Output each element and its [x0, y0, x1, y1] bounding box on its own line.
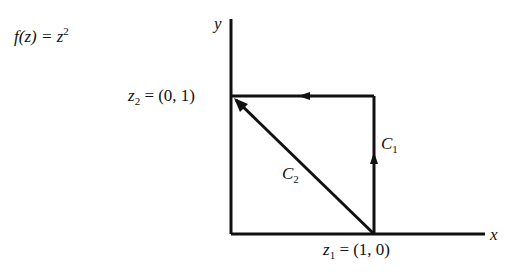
z1-name: z	[323, 240, 330, 259]
function-label: f(z) = z2	[14, 25, 69, 47]
path-c1-label: C1	[381, 134, 398, 155]
function-expression: f(z) = z	[14, 27, 63, 46]
z2-value: = (0, 1)	[140, 86, 195, 105]
function-exponent: 2	[63, 25, 69, 37]
c2-subscript: 2	[293, 173, 299, 185]
c1-subscript: 1	[392, 143, 398, 155]
arrow-up-icon	[370, 152, 378, 164]
z2-name: z	[128, 86, 135, 105]
path-c2-diagonal	[236, 100, 374, 234]
c1-name: C	[381, 134, 392, 153]
arrow-left-icon	[298, 92, 310, 100]
diagram-canvas	[0, 0, 524, 277]
point-z2-label: z2 = (0, 1)	[128, 86, 195, 107]
point-z1-label: z1 = (1, 0)	[323, 240, 390, 261]
c2-name: C	[282, 164, 293, 183]
x-axis-label: x	[490, 225, 498, 245]
path-c2-label: C2	[282, 164, 299, 185]
y-axis-label: y	[214, 14, 222, 34]
z1-value: = (1, 0)	[335, 240, 390, 259]
